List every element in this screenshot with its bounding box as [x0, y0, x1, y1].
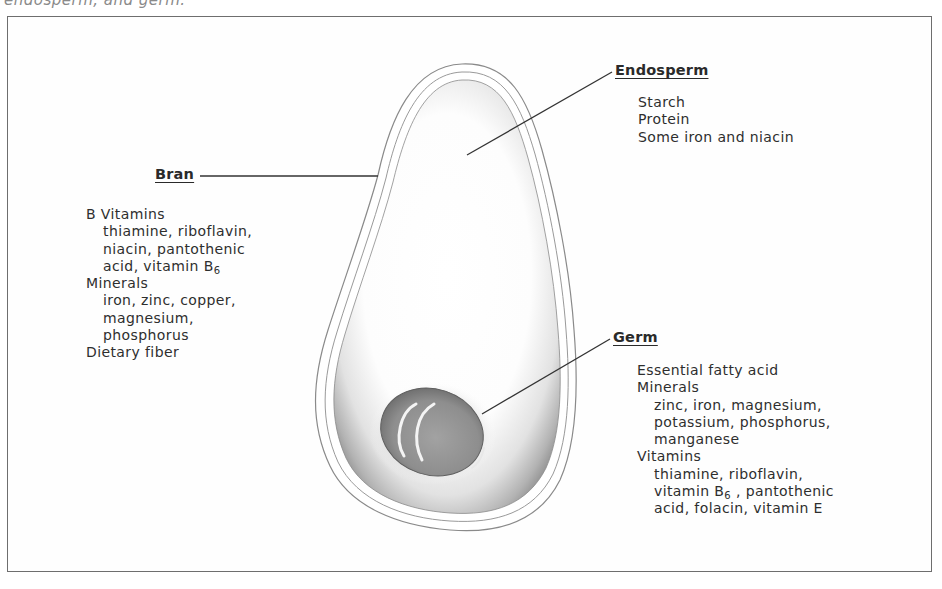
bran-item: magnesium, [86, 310, 252, 327]
subscript: 6 [214, 265, 221, 276]
germ-item: zinc, iron, magnesium, [637, 397, 834, 414]
bran-item: acid, vitamin B6 [86, 258, 252, 275]
germ-nutrient-list: Essential fatty acid Minerals zinc, iron… [637, 362, 834, 518]
germ-item: potassium, phosphorus, [637, 414, 834, 431]
bran-label: Bran [155, 166, 194, 182]
bran-item: iron, zinc, copper, [86, 292, 252, 309]
endosperm-label: Endosperm [615, 62, 708, 78]
bran-nutrient-list: B Vitamins thiamine, riboflavin, niacin,… [86, 206, 252, 362]
bran-item: thiamine, riboflavin, [86, 223, 252, 240]
bran-item: B Vitamins [86, 206, 252, 223]
germ-item: acid, folacin, vitamin E [637, 500, 834, 517]
bran-item: Dietary fiber [86, 344, 252, 361]
bran-item-text: acid, vitamin B [103, 258, 214, 274]
germ-item-text: vitamin B [654, 483, 724, 499]
germ-item: vitamin B6 , pantothenic [637, 483, 834, 500]
germ-item: Minerals [637, 379, 834, 396]
germ-item: Vitamins [637, 448, 834, 465]
germ-item-suffix: , pantothenic [731, 483, 834, 499]
endosperm-item: Starch [638, 94, 794, 111]
germ-label: Germ [613, 329, 658, 345]
bran-item: phosphorus [86, 327, 252, 344]
bran-item: Minerals [86, 275, 252, 292]
endosperm-item: Some iron and niacin [638, 129, 794, 146]
endosperm-nutrient-list: Starch Protein Some iron and niacin [638, 94, 794, 146]
germ-item: thiamine, riboflavin, [637, 466, 834, 483]
germ-item: Essential fatty acid [637, 362, 834, 379]
endosperm-item: Protein [638, 111, 794, 128]
germ-item: manganese [637, 431, 834, 448]
bran-item: niacin, pantothenic [86, 241, 252, 258]
